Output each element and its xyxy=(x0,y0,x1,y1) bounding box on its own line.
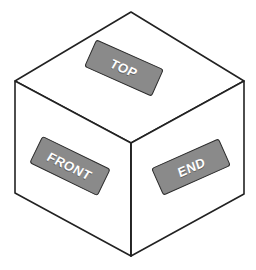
face-label-end-text: END xyxy=(176,155,206,179)
face-label-top-text: TOP xyxy=(108,57,140,80)
cube-outline-graphic xyxy=(0,0,256,270)
isometric-cube-figure: TOP FRONT END xyxy=(0,0,256,270)
